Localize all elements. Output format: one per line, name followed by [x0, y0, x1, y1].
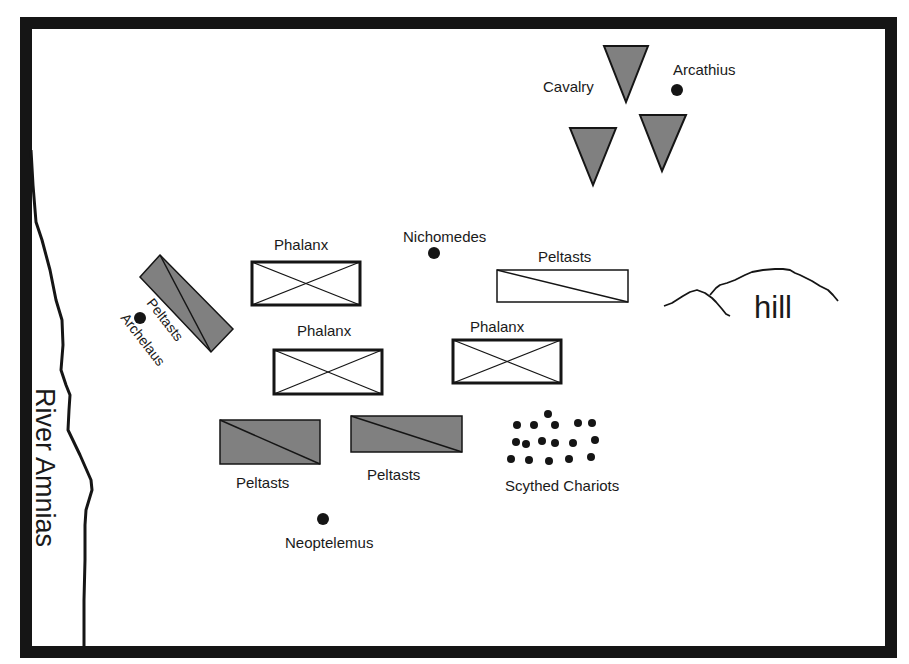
chariots-label: Scythed Chariots	[505, 477, 619, 494]
commander-label: Nichomedes	[403, 228, 486, 245]
peltasts-label: Peltasts	[236, 474, 289, 491]
peltasts-label: Peltasts	[367, 466, 420, 483]
river-label: River Amnias	[30, 388, 60, 547]
commander-label: Neoptelemus	[285, 534, 373, 551]
commander-label: Arcathius	[673, 61, 736, 78]
phalanx-label: Phalanx	[470, 318, 525, 335]
commander-dot-icon	[428, 247, 440, 259]
phalanx-label: Phalanx	[297, 322, 352, 339]
hill-label: hill	[754, 290, 792, 325]
map-frame	[26, 23, 891, 652]
commander-dot-icon	[671, 84, 683, 96]
commander-dot-icon	[317, 513, 329, 525]
battle-map: River Amnias Cavalry Arcathius Nichomede…	[0, 0, 909, 664]
peltasts-label: Peltasts	[538, 248, 591, 265]
cavalry-label: Cavalry	[543, 78, 594, 95]
phalanx-label: Phalanx	[274, 236, 329, 253]
